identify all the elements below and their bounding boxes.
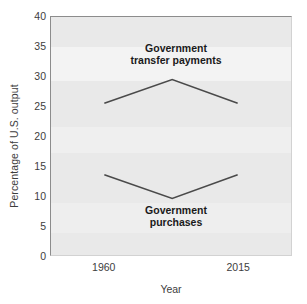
y-tick-label: 5 <box>2 221 46 232</box>
x-tick-label: 1960 <box>74 262 134 273</box>
y-tick-label: 30 <box>2 71 46 82</box>
y-tick-label: 10 <box>2 191 46 202</box>
y-tick-label: 15 <box>2 161 46 172</box>
y-tick-label: 35 <box>2 41 46 52</box>
y-tick-label: 20 <box>2 131 46 142</box>
x-tick-label: 2015 <box>208 262 268 273</box>
y-axis-ticks: 0 5 10 15 20 25 30 35 40 <box>0 0 46 304</box>
y-tick-label: 40 <box>2 11 46 22</box>
y-tick-label: 25 <box>2 101 46 112</box>
y-tick-label: 0 <box>2 251 46 262</box>
series-line-transfer-payments <box>104 79 237 103</box>
series-line-purchases <box>104 175 237 199</box>
x-axis-title: Year <box>50 283 292 295</box>
annotation-government-purchases: Government purchases <box>96 204 256 229</box>
annotation-government-transfer-payments: Government transfer payments <box>96 42 256 67</box>
chart-figure: Percentage of U.S. output 0 5 10 15 20 2… <box>0 0 307 304</box>
